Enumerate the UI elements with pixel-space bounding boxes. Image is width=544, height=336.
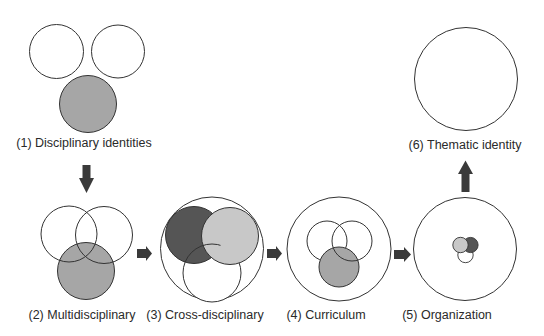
stage-1-disciplinary-identities <box>30 25 145 133</box>
right-arrow-icon <box>137 246 152 261</box>
stage-5-organization <box>414 198 517 301</box>
discipline-circle-left <box>30 25 84 79</box>
stage-3-label: (3) Cross-disciplinary <box>146 309 263 322</box>
up-arrow-icon <box>458 161 473 193</box>
stage-6-label: (6) Thematic identity <box>408 139 521 152</box>
right-arrow-icon <box>267 246 282 261</box>
stage-3-cross-disciplinary <box>161 197 264 302</box>
discipline-circle-gray <box>60 76 117 133</box>
stage-6-thematic-identity <box>415 28 518 131</box>
stage-2-multidisciplinary <box>41 206 133 300</box>
multi-circle-gray <box>58 243 115 300</box>
curriculum-circle-gray <box>319 247 359 287</box>
stage-4-curriculum <box>287 197 391 301</box>
organization-circle-light <box>453 237 468 252</box>
thematic-circle <box>415 28 518 131</box>
down-arrow-icon <box>79 165 94 193</box>
stage-1-label: (1) Disciplinary identities <box>16 137 151 150</box>
cross-circle-light <box>202 208 259 265</box>
right-arrow-icon <box>394 247 411 262</box>
stage-4-label: (4) Curriculum <box>286 309 365 322</box>
discipline-circle-right <box>92 25 145 78</box>
stage-2-label: (2) Multidisciplinary <box>29 309 136 322</box>
stage-5-label: (5) Organization <box>402 309 492 322</box>
diagram-canvas <box>0 0 544 336</box>
